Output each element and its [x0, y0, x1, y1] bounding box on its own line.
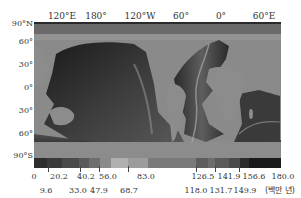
- colorbar-tick-label: 9.6: [40, 186, 53, 195]
- colorbar-segment: [196, 158, 208, 168]
- longitude-label-120e: 120°E: [48, 12, 76, 21]
- colorbar-tick-label: 141.9: [218, 172, 241, 181]
- longitude-label-120w: 120°W: [125, 12, 156, 21]
- colorbar-segment: [62, 158, 80, 168]
- colorbar-tick-label: 47.9: [90, 186, 108, 195]
- longitude-label-0: 0°: [216, 12, 226, 21]
- colorbar-segment: [208, 158, 215, 168]
- colorbar-segment: [229, 158, 240, 168]
- longitude-label-60e: 60°E: [253, 12, 276, 21]
- colorbar-tick-marker: [128, 166, 129, 172]
- colorbar-tick-label: 180.0: [272, 172, 295, 181]
- latitude-label-30s: 30°: [19, 106, 33, 115]
- latitude-label-90n: 90°N: [12, 19, 33, 28]
- colorbar-tick-label: 20.2: [50, 172, 68, 181]
- map-graphic: [34, 24, 281, 158]
- colorbar-tick-marker: [48, 166, 49, 172]
- colorbar-tick-label: 149.9: [234, 186, 257, 195]
- colorbar-segment: [215, 158, 229, 168]
- colorbar-segment: [128, 158, 148, 168]
- colorbar-tick-marker: [215, 166, 216, 172]
- colorbar-tick-label: 131.7: [210, 186, 233, 195]
- longitude-label-60w: 60°: [173, 12, 189, 21]
- colorbar-segment: [240, 158, 249, 168]
- longitude-label-180: 180°: [85, 12, 107, 21]
- colorbar-unit-label: (백만 년): [265, 186, 295, 195]
- seafloor-age-map: [34, 22, 281, 158]
- colorbar-tick-label: 33.0: [69, 186, 87, 195]
- latitude-label-90s: 90°S: [13, 151, 33, 160]
- colorbar-tick-label: 40.2: [77, 172, 95, 181]
- colorbar-segment: [249, 158, 281, 168]
- colorbar-segment: [47, 158, 62, 168]
- age-colorbar: [34, 158, 281, 168]
- colorbar-tick-label: 68.7: [120, 186, 138, 195]
- colorbar-tick-label: 56.0: [99, 172, 117, 181]
- latitude-label-30n: 30°: [19, 60, 33, 69]
- colorbar-tick-label: 83.0: [137, 172, 155, 181]
- colorbar-tick-label: 156.6: [243, 172, 266, 181]
- latitude-label-0: 0°: [24, 83, 33, 92]
- colorbar-tick-label: 126.5: [192, 172, 215, 181]
- colorbar-segment: [100, 158, 111, 168]
- colorbar-segment: [111, 158, 128, 168]
- colorbar-tick-label: 118.0: [185, 186, 208, 195]
- latitude-label-60s: 60°: [19, 129, 33, 138]
- colorbar-segment: [148, 158, 196, 168]
- latitude-label-60n: 60°: [19, 37, 33, 46]
- colorbar-segment: [34, 158, 47, 168]
- colorbar-tick-label: 0: [31, 172, 36, 181]
